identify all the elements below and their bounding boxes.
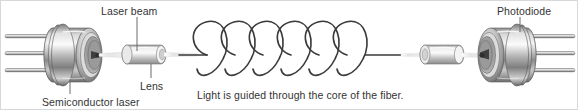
photodiode-front-cap <box>478 28 504 82</box>
lens-right-component <box>420 45 464 64</box>
laser-front-cap <box>76 28 102 82</box>
optical-fiber-diagram: Laser beam Lens Semiconductor laser Ligh… <box>0 0 578 110</box>
caption-fiber-core: Light is guided through the core of the … <box>197 89 404 101</box>
photodiode-collar <box>506 24 532 86</box>
laser-beam-segment-left <box>99 52 125 57</box>
laser-collar <box>48 24 74 86</box>
label-laser-beam: Laser beam <box>101 5 157 17</box>
photodiode-component <box>478 24 575 86</box>
semiconductor-laser-component <box>5 24 102 86</box>
label-photodiode: Photodiode <box>497 5 551 17</box>
lens-left-component <box>122 45 166 64</box>
laser-highlight-top <box>63 31 85 32</box>
optical-fiber-coil <box>179 21 407 75</box>
label-lens: Lens <box>140 80 163 92</box>
photodiode-highlight-top <box>497 31 519 32</box>
label-semiconductor-laser: Semiconductor laser <box>42 96 140 108</box>
